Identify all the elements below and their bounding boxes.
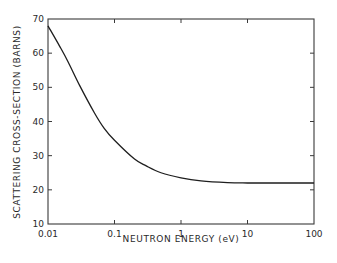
axis-ticks xyxy=(48,19,314,224)
x-tick-label: 100 xyxy=(305,229,322,239)
y-tick-label: 30 xyxy=(33,151,45,161)
plot-frame xyxy=(48,19,314,224)
x-tick-label: 0.1 xyxy=(107,229,121,239)
y-tick-labels: 10203040506070 xyxy=(33,14,45,229)
x-tick-label: 10 xyxy=(242,229,254,239)
y-tick-label: 10 xyxy=(33,219,45,229)
y-axis-label: SCATTERING CROSS-SECTION (BARNS) xyxy=(12,25,22,219)
y-tick-label: 50 xyxy=(33,82,45,92)
y-tick-label: 60 xyxy=(33,48,45,58)
chart: 0.010.1110100 10203040506070 NEUTRON ENE… xyxy=(0,0,337,263)
x-tick-label: 0.01 xyxy=(38,229,58,239)
x-axis-label: NEUTRON ENERGY (eV) xyxy=(123,234,240,244)
data-line xyxy=(48,26,314,183)
plot-border xyxy=(48,19,314,224)
y-tick-label: 20 xyxy=(33,185,45,195)
y-tick-label: 40 xyxy=(33,117,45,127)
y-tick-label: 70 xyxy=(33,14,45,24)
